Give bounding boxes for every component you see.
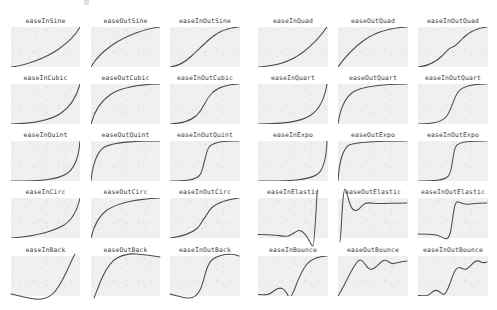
easing-curve-plot (11, 198, 80, 238)
easing-curve-plot (418, 256, 488, 296)
easing-curve-path (258, 190, 318, 246)
easing-panel: easeInOutBounce (418, 246, 488, 296)
easing-curve-plot (91, 198, 160, 238)
easing-curve-plot (170, 141, 240, 181)
easing-curve-plot (11, 27, 80, 67)
easing-curve-plot (418, 198, 488, 238)
easing-curve-path (258, 27, 327, 67)
easing-panel: easeInExpo (258, 131, 328, 181)
easing-panel-label: easeInOutBounce (418, 246, 488, 254)
easing-panel-label: easeInBack (11, 246, 80, 254)
easing-curve-path (11, 254, 75, 299)
easing-curve-path (11, 198, 80, 238)
easing-panel: easeInOutSine (170, 17, 240, 67)
easing-panel: easeInQuad (258, 17, 328, 67)
easing-panel-label: easeInOutQuint (170, 131, 240, 139)
easing-panel-label: easeInCubic (11, 74, 80, 82)
easing-panel-label: easeInSine (11, 17, 80, 25)
easing-panel-label: easeInOutQuad (418, 17, 488, 25)
easing-curve-path (340, 189, 407, 242)
easing-curve-plot (258, 141, 328, 181)
easing-panel: easeInCirc (11, 188, 80, 238)
easing-curve-plot (338, 27, 408, 67)
easing-curve-plot (11, 84, 80, 124)
easing-curve-path (170, 84, 239, 124)
easing-panel-label: easeOutExpo (338, 131, 408, 139)
easing-panel-label: easeInOutCirc (170, 188, 240, 196)
easing-panel-label: easeInOutBack (170, 246, 240, 254)
easing-curve-path (418, 27, 487, 67)
easing-curve-plot (170, 27, 240, 67)
easing-curve-path (170, 27, 239, 67)
easing-panel-label: easeOutElastic (338, 188, 408, 196)
easing-curve-path (418, 84, 487, 124)
easing-panel: easeInSine (11, 17, 80, 67)
easing-panel: easeInCubic (11, 74, 80, 124)
easing-curve-path (11, 141, 80, 181)
easing-curve-path (11, 27, 80, 67)
easing-curve-path (11, 84, 80, 124)
easing-curve-path (338, 260, 407, 296)
easing-panel-label: easeOutQuad (338, 17, 408, 25)
easing-panel: easeOutQuint (91, 131, 160, 181)
easing-panel-label: easeInOutSine (170, 17, 240, 25)
easing-panel-label: easeOutQuint (91, 131, 160, 139)
easing-panel: easeOutExpo (338, 131, 408, 181)
easing-curve-plot (258, 198, 328, 238)
easing-panel: easeOutElastic (338, 188, 408, 238)
easing-panel: easeInElastic (258, 188, 328, 238)
easing-panel-label: easeOutCirc (91, 188, 160, 196)
easing-panel-label: easeOutSine (91, 17, 160, 25)
easing-curve-path (91, 84, 160, 124)
easing-curve-path (338, 84, 407, 124)
easing-panel: easeInOutCubic (170, 74, 240, 124)
easing-panel: easeOutCirc (91, 188, 160, 238)
easing-panel-label: easeInQuint (11, 131, 80, 139)
easing-panel: easeOutCubic (91, 74, 160, 124)
easing-curve-path (170, 141, 239, 181)
easing-panel-label: easeInOutQuart (418, 74, 488, 82)
easing-panel: easeInOutExpo (418, 131, 488, 181)
easing-curve-path (170, 254, 239, 298)
easing-panel: easeInBack (11, 246, 80, 296)
easing-curve-plot (91, 256, 160, 296)
easing-curve-plot (418, 27, 488, 67)
easing-curve-path (258, 141, 327, 181)
easing-curve-plot (338, 256, 408, 296)
easing-curve-path (418, 141, 487, 181)
easing-curve-path (91, 141, 160, 181)
easing-curve-path (338, 27, 407, 67)
easing-panel: easeInOutBack (170, 246, 240, 296)
easing-panel-label: easeOutQuart (338, 74, 408, 82)
easing-panel-label: easeInQuad (258, 17, 328, 25)
easing-curve-plot (258, 84, 328, 124)
easing-curve-path (170, 198, 239, 238)
easing-panel: easeInOutQuad (418, 17, 488, 67)
easing-panel: easeInOutQuart (418, 74, 488, 124)
easing-panel: easeOutBounce (338, 246, 408, 296)
easing-curve-path (258, 84, 327, 124)
easing-curve-plot (11, 141, 80, 181)
easing-curve-plot (338, 198, 408, 238)
easing-curve-plot (11, 256, 80, 296)
easing-curve-path (338, 141, 407, 181)
easing-panel-label: easeInOutExpo (418, 131, 488, 139)
easing-curve-plot (91, 27, 160, 67)
easing-curve-path (91, 198, 160, 238)
easing-panel-label: easeInBounce (258, 246, 328, 254)
easing-panel-label: easeInOutElastic (418, 188, 488, 196)
easing-curve-plot (91, 141, 160, 181)
easing-curve-plot (338, 84, 408, 124)
easing-panel: easeOutSine (91, 17, 160, 67)
easing-curve-plot (418, 84, 488, 124)
easing-panel: easeInOutElastic (418, 188, 488, 238)
easing-curve-path (94, 254, 160, 298)
easing-curve-plot (170, 256, 240, 296)
easing-curve-path (418, 261, 487, 296)
easing-curve-path (91, 27, 160, 67)
easing-panel-label: easeInExpo (258, 131, 328, 139)
easing-panel: easeInOutQuint (170, 131, 240, 181)
easing-panel: easeInBounce (258, 246, 328, 296)
easing-curve-path (418, 202, 487, 239)
easing-curve-plot (170, 198, 240, 238)
